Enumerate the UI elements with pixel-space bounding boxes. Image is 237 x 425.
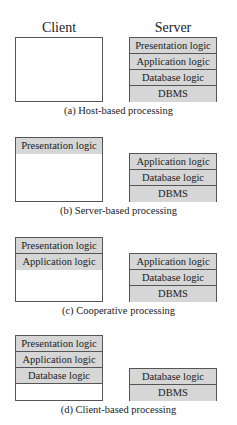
layer-presentation-logic: Presentation logic (16, 336, 102, 352)
caption-c: (c) Cooperative processing (0, 305, 237, 316)
panel-d-client-box: Presentation logic Application logic Dat… (15, 335, 103, 401)
layer-presentation-logic: Presentation logic (130, 38, 216, 54)
layer-application-logic: Application logic (16, 254, 102, 270)
caption-a: (a) Host-based processing (0, 105, 237, 116)
header-client: Client (15, 20, 103, 36)
caption-d: (d) Client-based processing (0, 404, 237, 415)
panel-a-server-box: Presentation logic Application logic Dat… (129, 37, 217, 102)
layer-database-logic: Database logic (130, 170, 216, 186)
panel-c-client-box: Presentation logic Application logic (15, 237, 103, 302)
layer-dbms: DBMS (130, 186, 216, 202)
layer-application-logic: Application logic (130, 54, 216, 70)
layer-database-logic: Database logic (130, 369, 216, 385)
layer-application-logic: Application logic (130, 154, 216, 170)
panel-d-server-box: Database logic DBMS (129, 368, 217, 401)
layer-dbms: DBMS (130, 86, 216, 102)
layer-application-logic: Application logic (130, 254, 216, 270)
layer-dbms: DBMS (130, 286, 216, 302)
layer-database-logic: Database logic (16, 368, 102, 384)
layer-database-logic: Database logic (130, 270, 216, 286)
panel-b-server-box: Application logic Database logic DBMS (129, 153, 217, 202)
caption-b: (b) Server-based processing (0, 205, 237, 216)
layer-dbms: DBMS (130, 385, 216, 401)
panel-a-client-box (15, 37, 103, 102)
layer-application-logic: Application logic (16, 352, 102, 368)
panel-b-client-box: Presentation logic (15, 137, 103, 202)
panel-c-server-box: Application logic Database logic DBMS (129, 253, 217, 302)
layer-database-logic: Database logic (130, 70, 216, 86)
header-server: Server (129, 20, 217, 36)
layer-presentation-logic: Presentation logic (16, 138, 102, 154)
layer-presentation-logic: Presentation logic (16, 238, 102, 254)
